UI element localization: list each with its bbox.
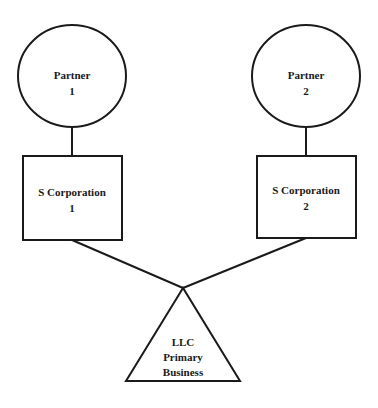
node-label-line2: 2: [303, 85, 309, 97]
edge-scorp1-llc: [72, 240, 183, 288]
ownership-diagram: Partner 1 Partner 2 S Corporation 1 S Co…: [0, 0, 378, 408]
rectangle-shape: [23, 156, 122, 240]
node-label-line2: 1: [69, 202, 75, 214]
node-partner-2: Partner 2: [252, 25, 360, 127]
node-label-line3: Business: [163, 366, 204, 378]
node-label-line2: 2: [303, 200, 309, 212]
node-label-line2: 1: [69, 85, 75, 97]
node-partner-1: Partner 1: [18, 25, 126, 127]
edge-scorp2-llc: [183, 238, 306, 288]
node-label-line1: LLC: [172, 336, 195, 348]
rectangle-shape: [257, 156, 356, 238]
node-llc-primary-business: LLC Primary Business: [126, 288, 240, 381]
node-label-line2: Primary: [163, 351, 203, 363]
node-s-corporation-2: S Corporation 2: [257, 156, 356, 238]
node-label-line1: Partner: [288, 69, 325, 81]
node-label-line1: S Corporation: [272, 184, 340, 196]
node-label-line1: S Corporation: [38, 186, 106, 198]
node-s-corporation-1: S Corporation 1: [23, 156, 122, 240]
node-label-line1: Partner: [54, 69, 91, 81]
